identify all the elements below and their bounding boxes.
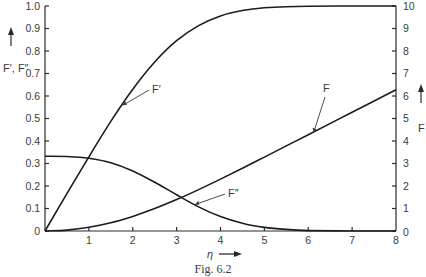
left-axis-title: F′, F″ [3,62,29,74]
right-tick-label: 6 [403,90,409,102]
annotation-f-label: F [323,82,330,94]
x-tick-label: 4 [218,234,224,246]
curve-f-prime [45,6,396,231]
left-tick-label: 0.4 [25,135,40,147]
left-tick-label: 0.9 [25,22,40,34]
right-tick-label: 7 [403,67,409,79]
left-tick-label: 1.0 [25,0,40,12]
right-tick-label: 5 [403,112,409,124]
x-tick-label: 1 [86,234,92,246]
right-tick-label: 1 [403,202,409,214]
right-tick-label: 8 [403,45,409,57]
x-tick-label: 5 [261,234,267,246]
left-tick-label: 0.1 [25,202,40,214]
left-tick-label: 0.5 [25,112,40,124]
right-axis-label: F [418,84,425,134]
arrow-head-icon [418,84,424,92]
curve-f-double-prime [45,156,396,231]
x-axis-label: η [207,248,242,260]
annotation-f-prime-label: F′ [152,83,161,95]
right-tick-label: 3 [403,157,409,169]
x-tick-label: 7 [349,234,355,246]
arrow-head-icon [8,27,14,35]
x-tick-label: 6 [305,234,311,246]
annotation-f-double-prime-leader [195,194,225,204]
left-tick-label: 0.6 [25,90,40,102]
x-tick-label: 3 [174,234,180,246]
arrow-head-icon [234,251,242,257]
left-tick-label: 0.8 [25,45,40,57]
left-tick-label: 0.3 [25,157,40,169]
right-tick-label: 2 [403,180,409,192]
annotation-f-double-prime-label: F″ [228,187,239,199]
right-tick-label: 10 [403,0,415,12]
x-tick-label: 8 [393,234,399,246]
right-tick-label: 4 [403,135,409,147]
annotations: F′F″F [122,82,330,206]
figure-caption: Fig. 6.2 [0,262,426,277]
left-tick-label: 0.2 [25,180,40,192]
curves [45,6,396,231]
x-tick-label: 2 [130,234,136,246]
x-axis-title: η [207,248,213,260]
axes: 00.10.20.30.40.50.60.70.80.91.0012345678… [25,0,414,246]
right-tick-label: 0 [403,226,409,238]
left-tick-label: 0 [34,225,40,237]
right-tick-label: 9 [403,22,409,34]
right-axis-title: F [418,122,425,134]
